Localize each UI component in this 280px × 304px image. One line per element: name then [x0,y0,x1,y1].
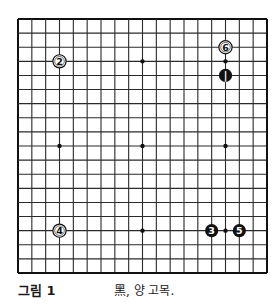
move-number: 6 [222,42,229,53]
star-point [140,144,144,148]
move-number: | [224,70,228,82]
star-point [57,144,61,148]
black-stone-5: 5 [233,224,246,237]
star-point [140,228,144,232]
black-stone-1: | [219,69,232,82]
star-point [223,59,227,63]
move-number: 3 [208,225,215,236]
move-number: 5 [236,225,243,236]
stones: |23456 [53,41,246,238]
white-stone-6: 6 [219,41,232,54]
star-point [223,228,227,232]
star-point [140,59,144,63]
white-stone-4: 4 [53,224,66,237]
move-number: 2 [56,56,63,67]
figure-caption: 黑, 양 고목. [114,281,174,298]
move-number: 4 [56,225,63,236]
white-stone-2: 2 [53,55,66,68]
star-point [223,144,227,148]
figure-label: 그림 1 [18,280,56,299]
go-board: |23456 [0,0,280,275]
black-stone-3: 3 [205,224,218,237]
